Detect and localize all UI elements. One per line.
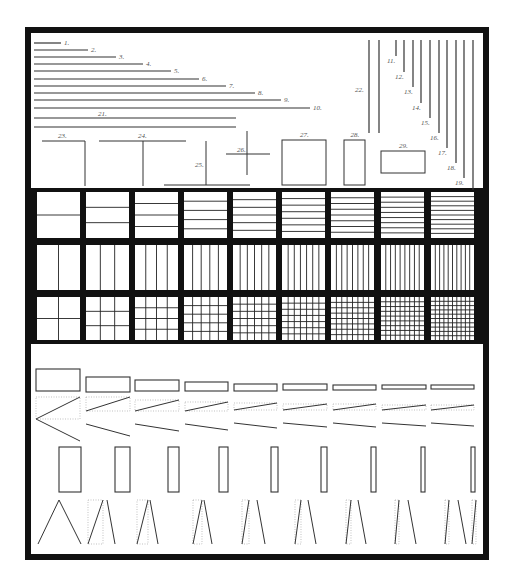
horizontal-line-label: 10.	[313, 104, 322, 112]
angle-arm-lower	[36, 419, 80, 441]
tall-rect-6	[321, 447, 327, 492]
fig_29-label: 29.	[399, 142, 408, 150]
lean-diagonal	[193, 500, 202, 544]
fig-26-label: 26.	[237, 146, 246, 154]
angle-arm-upper	[333, 404, 376, 410]
horizontal-line-label: 7.	[229, 82, 235, 90]
vertical-line-label: 17.	[438, 149, 447, 157]
horizontal-line-label: 9.	[284, 96, 290, 104]
figure-22-vertical-pair: 22.	[355, 40, 379, 133]
angle-arm-lower	[333, 423, 376, 427]
grating-squares-panel	[37, 192, 474, 340]
lean-diagonal	[242, 500, 249, 544]
grating-cell-horizontal	[184, 192, 227, 238]
tall-rect-5	[271, 447, 278, 492]
lean-arm-left	[308, 500, 316, 544]
lean-diagonal	[346, 500, 351, 544]
angle-arm-upper	[185, 402, 228, 411]
horizontal-line-label: 8.	[258, 89, 264, 97]
lean-diagonal	[137, 500, 148, 544]
angle-arm-lower	[135, 424, 179, 431]
flat-rect-7	[333, 385, 376, 390]
tall-rect-1	[59, 447, 81, 492]
horizontal-line-label: 4.	[146, 60, 152, 68]
flat-rect-2	[86, 377, 130, 392]
grating-top-border	[28, 188, 486, 192]
vertical-line-label: 14.	[412, 104, 421, 112]
fig_29-rect	[381, 151, 425, 173]
flat-rect-8	[382, 385, 426, 389]
vertical-line-label: 11.	[387, 57, 395, 65]
grating-cell-horizontal	[381, 192, 424, 238]
angle-arm-lower	[185, 424, 228, 430]
angle-arm-lower	[382, 423, 426, 426]
figures-23-to-29: 23.24.25.26.27.28.29.	[42, 131, 425, 186]
horizontal-line-series: 1.2.3.4.5.6.7.8.9.10.	[34, 39, 322, 112]
angle-arm-upper	[431, 405, 474, 410]
figure-21-label: 21.	[98, 110, 107, 118]
angle-arm-lower	[234, 423, 277, 428]
illusion-test-plate: 1.2.3.4.5.6.7.8.9.10. 21. 22. 11.12.13.1…	[0, 0, 509, 583]
angle-arm-upper	[382, 405, 426, 410]
grating-cell-grid	[184, 297, 227, 340]
lean-arm-left	[458, 500, 466, 544]
lean-arm-left	[358, 500, 366, 544]
angle-arm-lower	[283, 423, 327, 427]
vertical-line-label: 12.	[395, 73, 404, 81]
tall-rect-9	[471, 447, 475, 492]
fig_28-label: 28.	[351, 131, 360, 139]
vertical-line-series: 11.12.13.14.15.16.17.18.19.20.	[387, 40, 473, 199]
vertical-line-label: 15.	[421, 119, 430, 127]
grating-left-border	[28, 188, 38, 340]
lean-arm-left	[204, 500, 212, 544]
flat-rect-4	[185, 382, 228, 391]
lean-arm-left	[408, 500, 416, 544]
tall-rect-7	[371, 447, 376, 492]
tall-rect-8	[421, 447, 425, 492]
fig_27-label: 27.	[300, 131, 309, 139]
lean-arm-left	[257, 500, 265, 544]
flat-rect-1	[36, 369, 80, 391]
flat-rect-9	[431, 385, 474, 389]
tall-rect-3	[168, 447, 179, 492]
lean-arm-right	[59, 500, 81, 544]
horizontal-line-label: 5.	[174, 67, 180, 75]
lean-diagonal	[295, 500, 301, 544]
grating-cell-grid	[86, 297, 129, 340]
flat-rect-6	[283, 384, 327, 390]
lean-arm-left	[150, 500, 158, 544]
grating-cell-grid	[381, 297, 424, 340]
grating-cell-vertical	[86, 245, 129, 290]
angle-arm-upper	[234, 403, 277, 410]
horizontal-line-label: 1.	[64, 39, 70, 47]
angle-arm-upper	[36, 397, 80, 419]
vertical-line-label: 16.	[430, 134, 439, 142]
lean-arm-left	[107, 500, 115, 544]
grating-bottom-border	[28, 340, 486, 344]
grating-cell-vertical	[184, 245, 227, 290]
lean-diagonal	[88, 500, 103, 544]
angle-arm-upper	[135, 400, 179, 411]
vertical-line-label: 18.	[447, 164, 456, 172]
fig-25-label: 25.	[195, 161, 204, 169]
angle-arm-lower	[86, 424, 130, 436]
figure-22-label: 22.	[355, 86, 364, 94]
angle-arm-lower	[431, 423, 474, 426]
vertical-line-label: 13.	[404, 88, 413, 96]
grating-right-border	[474, 188, 486, 340]
fig_27-rect	[282, 140, 326, 185]
vertical-line-label: 19.	[455, 179, 464, 187]
tall-rect-4	[219, 447, 228, 492]
lean-diagonal	[395, 500, 399, 544]
lean-arm-left	[38, 500, 59, 544]
lean-diagonal	[445, 500, 449, 544]
fig-24-label: 24.	[138, 132, 147, 140]
grating-cell-horizontal	[86, 192, 129, 238]
angle-arm-upper	[86, 397, 130, 411]
fig-23-label: 23.	[58, 132, 67, 140]
lean-diagonal	[472, 500, 476, 544]
tall-rect-2	[115, 447, 130, 492]
horizontal-line-label: 6.	[202, 75, 208, 83]
angle-arm-upper	[283, 404, 327, 410]
horizontal-line-label: 2.	[91, 46, 97, 54]
